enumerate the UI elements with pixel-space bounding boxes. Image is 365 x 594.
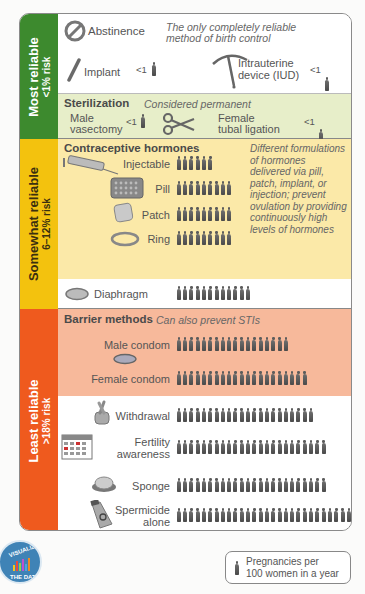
panel-least-reliable: Withdrawal Fertilityawareness Sponge Spe…	[58, 396, 351, 531]
spermicide-label: Spermicidealone	[98, 504, 170, 528]
tubal-ligation-value: <1	[304, 116, 315, 127]
vasectomy-label: Malevasectomy	[70, 113, 123, 135]
chart-frame: Most reliable<1% risk Somewhat reliable6…	[19, 13, 352, 531]
pregnancy-icon	[226, 181, 232, 196]
panel-diaphragm: Diaphragm	[58, 279, 351, 309]
badge-bars-icon	[13, 557, 30, 571]
fertility-awareness-bar	[176, 440, 327, 455]
patch-bar	[176, 207, 233, 222]
pregnancy-icon	[283, 337, 289, 352]
pregnancy-icon	[321, 440, 327, 455]
pregnancy-icon	[245, 286, 251, 301]
band-title: Least reliable	[27, 379, 41, 462]
abstinence-note: The only completely reliable method of b…	[166, 22, 326, 44]
pill-label: Pill	[118, 183, 170, 195]
condom-icon	[112, 353, 138, 365]
ring-bar	[176, 231, 233, 246]
band-somewhat-reliable: Somewhat reliable6–12% risk	[20, 139, 58, 309]
tubal-ligation-label: Femaletubal ligation	[218, 113, 280, 135]
legend-line-1: Pregnancies per	[246, 556, 339, 568]
barrier-heading: Barrier methods	[64, 313, 153, 325]
abstinence-icon	[64, 20, 86, 42]
sterilization-heading: Sterilization	[64, 97, 129, 109]
panel-hormones: Contraceptive hormones Different formula…	[58, 139, 351, 279]
abstinence-label: Abstinence	[88, 25, 145, 37]
pregnancy-icon	[207, 156, 213, 171]
withdrawal-bar	[176, 408, 315, 423]
implant-label: Implant	[84, 66, 120, 78]
scissors-icon	[162, 112, 196, 136]
band-sub: >18% risk	[41, 379, 52, 462]
band-sub: <1% risk	[41, 37, 52, 116]
badge-top-text: VISUALIZING	[8, 540, 42, 558]
sponge-label: Sponge	[98, 480, 170, 492]
panel-barrier: Barrier methods Can also prevent STIs Ma…	[58, 309, 351, 396]
visualizing-the-data-badge: VISUALIZING THE DATA	[0, 540, 42, 584]
pregnancy-icon	[302, 371, 308, 386]
fertility-awareness-label: Fertilityawareness	[98, 436, 170, 460]
sterilization-note: Considered permanent	[144, 98, 251, 110]
pregnancy-icon	[324, 77, 330, 92]
band-title: Most reliable	[27, 37, 41, 116]
hormones-note: Different formulationsof hormonesdeliver…	[250, 143, 347, 235]
diaphragm-label: Diaphragm	[94, 288, 148, 300]
pregnancy-icon	[226, 207, 232, 222]
pregnancy-icon	[140, 114, 146, 129]
spermicide-bar	[176, 508, 352, 523]
band-least-reliable: Least reliable>18% risk	[20, 309, 58, 531]
pregnancy-icon	[346, 508, 352, 523]
diaphragm-icon	[64, 287, 90, 301]
pregnancy-icon	[308, 408, 314, 423]
pregnancy-icon	[321, 478, 327, 493]
calendar-icon	[61, 434, 93, 460]
male-condom-bar	[176, 337, 289, 352]
barrier-note: Can also prevent STIs	[156, 314, 260, 326]
panel-most-reliable: Abstinence The only completely reliable …	[58, 14, 351, 94]
band-most-reliable: Most reliable<1% risk	[20, 14, 58, 139]
patch-label: Patch	[118, 209, 170, 221]
pill-bar	[176, 181, 233, 196]
iud-value: <1	[310, 64, 321, 75]
implant-value: <1	[136, 64, 147, 75]
implant-icon	[66, 58, 82, 82]
female-condom-label: Female condom	[58, 373, 170, 385]
band-title: Somewhat reliable	[27, 167, 41, 281]
injectable-label: Injectable	[108, 158, 170, 170]
withdrawal-label: Withdrawal	[98, 410, 170, 422]
sponge-bar	[176, 478, 327, 493]
band-sub: 6–12% risk	[41, 167, 52, 281]
legend: Pregnancies per100 women in a year	[225, 551, 351, 584]
vasectomy-value: <1	[126, 116, 137, 127]
male-condom-label: Male condom	[62, 339, 170, 351]
diaphragm-bar	[176, 286, 252, 301]
panel-sterilization: Sterilization Considered permanent Malev…	[58, 94, 351, 139]
iud-label: Intrauterinedevice (IUD)	[238, 57, 299, 81]
injectable-bar	[176, 156, 214, 171]
badge-bottom-text: THE DATA	[10, 574, 39, 580]
ring-label: Ring	[118, 233, 170, 245]
female-condom-bar	[176, 371, 308, 386]
pregnancy-icon	[234, 561, 240, 576]
pregnancy-icon	[226, 231, 232, 246]
pregnancy-icon	[151, 62, 157, 77]
hormones-heading: Contraceptive hormones	[64, 142, 199, 154]
legend-line-2: 100 women in a year	[246, 568, 339, 580]
